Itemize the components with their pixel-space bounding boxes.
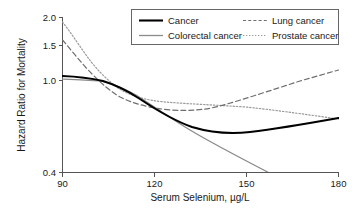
x-tick-label-180: 180 [331, 178, 347, 189]
y-tick-label-0p4: 0.4 [43, 167, 56, 178]
legend-label-prostate-cancer: Prostate cancer [272, 30, 339, 41]
chart-legend: Cancer Lung cancer Colorectal cancer Pro… [132, 10, 339, 45]
y-axis-title: Hazard Ratio for Mortality [16, 38, 27, 151]
hazard-ratio-line-chart: 2.0 1.5 1.0 0.4 Hazard Ratio for Mortali… [0, 0, 355, 212]
chart-figure: 2.0 1.5 1.0 0.4 Hazard Ratio for Mortali… [0, 0, 355, 212]
y-tick-label-2: 2.0 [43, 12, 56, 23]
y-tick-label-1p5: 1.5 [43, 40, 56, 51]
y-tick-label-1: 1.0 [43, 75, 56, 86]
x-tick-label-120: 120 [147, 178, 163, 189]
x-tick-label-150: 150 [239, 178, 255, 189]
x-axis-title: Serum Selenium, µg/L [150, 192, 250, 203]
legend-label-colorectal-cancer: Colorectal cancer [168, 30, 242, 41]
legend-label-lung-cancer: Lung cancer [272, 15, 324, 26]
legend-label-cancer: Cancer [168, 15, 199, 26]
x-tick-label-90: 90 [57, 178, 68, 189]
